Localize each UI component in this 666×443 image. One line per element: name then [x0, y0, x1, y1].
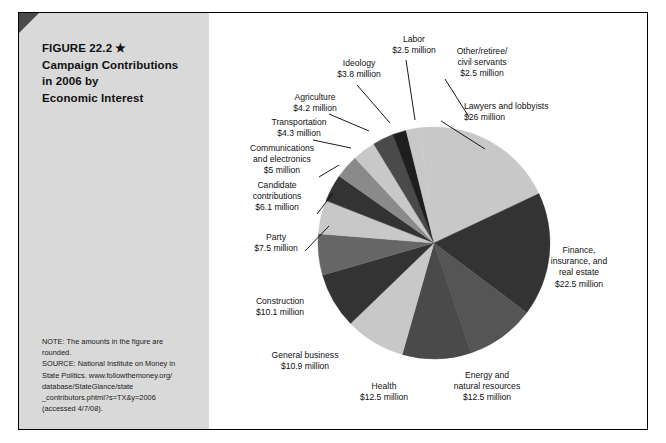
star-icon: ★ — [115, 41, 126, 55]
figure-frame: FIGURE 22.2 ★ Campaign Contributions in … — [18, 12, 648, 430]
corner-flag-decoration — [19, 13, 39, 33]
slice-label-party: Party $7.5 million — [237, 232, 315, 254]
slice-label-health: Health $12.5 million — [343, 381, 425, 403]
slice-label-transportation: Transportation $4.3 million — [249, 117, 349, 139]
slice-label-ideology: Ideology $3.8 million — [319, 58, 399, 80]
slice-label-construction: Construction $10.1 million — [234, 296, 326, 318]
leader-line — [357, 85, 390, 123]
source-text: SOURCE: National Institute on Money in S… — [42, 358, 207, 414]
figure-title-line3: in 2006 by — [42, 75, 99, 87]
slice-label-other: Other/retiree/ civil servants $2.5 milli… — [435, 46, 529, 80]
notes-block: NOTE: The amounts in the figure are roun… — [42, 336, 207, 414]
note-text: NOTE: The amounts in the figure are roun… — [42, 336, 207, 358]
caption-panel: FIGURE 22.2 ★ Campaign Contributions in … — [19, 13, 209, 429]
slice-label-communications: Communications and electronics $5 millio… — [227, 143, 337, 177]
slice-label-finance: Finance, insurance, and real estate $22.… — [531, 245, 627, 290]
chart-area: Lawyers and lobbyists $26 million Financ… — [209, 13, 647, 429]
leader-line — [406, 60, 415, 120]
slice-label-candidate: Candidate contributions $6.1 million — [229, 180, 325, 214]
slice-label-lawyers: Lawyers and lobbyists $26 million — [464, 101, 584, 123]
figure-number: FIGURE 22.2 — [42, 42, 112, 54]
slice-label-energy: Energy and natural resources $12.5 milli… — [431, 370, 543, 404]
leader-line — [441, 121, 485, 149]
slice-label-general-business: General business $10.9 million — [251, 350, 359, 372]
figure-title-line2: Campaign Contributions — [42, 59, 178, 71]
figure-title-line4: Economic Interest — [42, 92, 143, 104]
figure-container: FIGURE 22.2 ★ Campaign Contributions in … — [0, 0, 666, 443]
slice-label-agriculture: Agriculture $4.2 million — [271, 92, 359, 114]
page-title: FIGURE 22.2 ★ Campaign Contributions in … — [42, 40, 192, 106]
